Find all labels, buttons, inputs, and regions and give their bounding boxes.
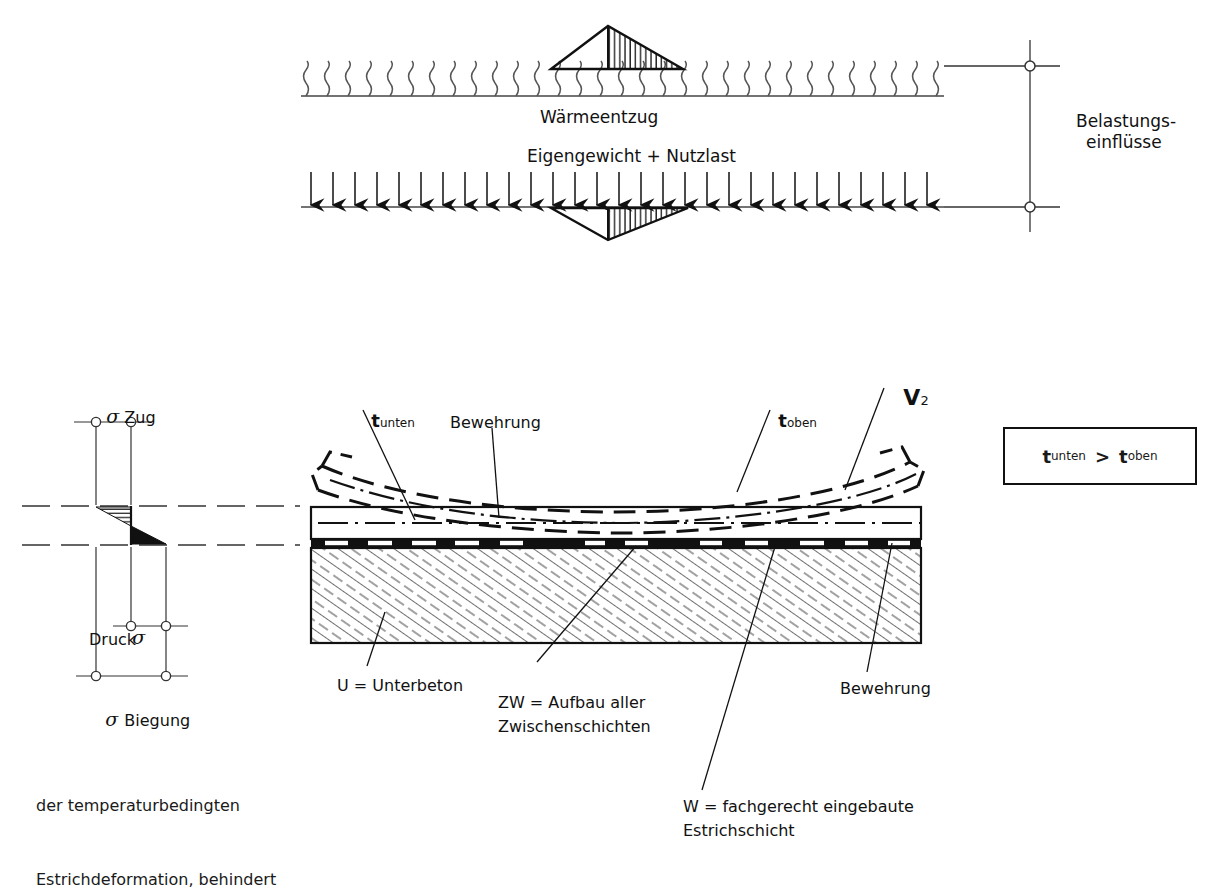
label-eigengewicht-nutzlast: Eigengewicht + Nutzlast: [527, 145, 736, 167]
label-bewehrung-bottom: Bewehrung: [840, 678, 931, 699]
t-oben-sub: oben: [787, 416, 817, 430]
label-w-line1: W = fachgerecht eingebaute: [683, 796, 914, 817]
t-oben-base: t: [778, 410, 787, 431]
label-bewehrung-top: Bewehrung: [450, 412, 541, 433]
sigma-glyph-biegung: σ: [105, 708, 118, 730]
sigma-zug-text: Zug: [124, 408, 155, 427]
ineq-right-base: t: [1119, 446, 1128, 467]
label-belastungseinfluesse-line2: einflüsse: [1086, 131, 1162, 153]
moment-triangle-bottom: [551, 208, 688, 240]
v2-base: V: [903, 385, 920, 410]
slab-section-group: [311, 447, 924, 643]
ineq-left-base: t: [1042, 446, 1051, 467]
ineq-operator: >: [1095, 446, 1110, 467]
dim-sigma-biegung: [76, 671, 188, 680]
label-zw-line2: Zwischenschichten: [498, 716, 651, 737]
sigma-glyph-zug: σ: [106, 405, 119, 427]
label-waermeentzug: Wärmeentzug: [540, 106, 658, 128]
label-t-unten: tunten: [351, 388, 415, 454]
label-belastungseinfluesse-line1: Belastungs-: [1076, 110, 1176, 132]
gravity-load-group: [301, 172, 944, 240]
belastung-bracket: [944, 40, 1060, 232]
inequality-box: tunten > toben: [1003, 427, 1197, 485]
label-unterbeton: U = Unterbeton: [337, 675, 463, 696]
label-zw-line1: ZW = Aufbau aller: [498, 692, 645, 713]
label-sigma-zug: σZug: [86, 383, 156, 450]
t-unten-base: t: [371, 410, 380, 431]
sigma-biegung-text: Biegung: [124, 711, 190, 730]
diagram-canvas: Wärmeentzug Eigengewicht + Nutzlast Bela…: [0, 0, 1222, 894]
ineq-left-sub: unten: [1051, 449, 1086, 463]
thermal-load-group: [301, 26, 944, 96]
ineq-right-sub: oben: [1128, 449, 1158, 463]
caption-line-2: Estrichdeformation, behindert: [36, 868, 276, 893]
stress-caption: der temperaturbedingten Estrichdeformati…: [36, 744, 276, 894]
moment-triangle-top: [551, 26, 683, 69]
v2-sub: 2: [920, 393, 928, 408]
stress-block-group: [22, 417, 300, 680]
label-t-oben: toben: [758, 388, 817, 454]
t-unten-sub: unten: [380, 416, 415, 430]
label-v2: V2: [883, 362, 929, 433]
label-sigma-druck: Druck: [89, 629, 136, 650]
caption-line-1: der temperaturbedingten: [36, 794, 276, 819]
label-w-line2: Estrichschicht: [683, 820, 795, 841]
